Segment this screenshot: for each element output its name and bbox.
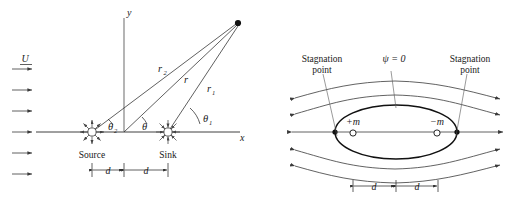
- source-label: Source: [79, 150, 105, 160]
- stagnation-dot-left: [332, 129, 337, 134]
- source-strength-label: +m: [346, 116, 360, 127]
- right-dimension-label-d-left: d: [372, 181, 378, 192]
- right-dimension-label-d-right: d: [415, 181, 421, 192]
- figure-canvas: U y x Source Sink r 2 r r 1 θ 2 θ: [0, 0, 510, 202]
- source-symbol: [80, 120, 104, 144]
- svg-text:2: 2: [164, 69, 168, 76]
- dimension-label-d-left: d: [106, 165, 112, 176]
- stagnation-right-line1: Stagnation: [450, 54, 491, 64]
- radius-label-r1: r 1: [207, 83, 215, 96]
- field-point: [235, 20, 241, 26]
- right-dimension: [353, 180, 438, 192]
- ray-r2: [92, 24, 236, 132]
- sink-symbol: [156, 120, 180, 144]
- sink-strength-label: −m: [430, 116, 444, 127]
- arc-theta1: [190, 108, 200, 124]
- psi-label: ψ = 0: [383, 53, 406, 64]
- sink-label: Sink: [159, 150, 177, 160]
- svg-text:θ: θ: [203, 113, 208, 124]
- svg-text:2: 2: [114, 127, 118, 134]
- right-panel: Stagnation point Stagnation point ψ = 0 …: [292, 53, 503, 192]
- stagnation-right-line2: point: [460, 65, 480, 75]
- streamlines-below: [295, 149, 500, 183]
- svg-text:r: r: [158, 63, 163, 74]
- x-axis-label: x: [239, 132, 245, 143]
- y-axis-label: y: [126, 7, 132, 18]
- freestream-arrows: [12, 69, 32, 174]
- figure-svg: U y x Source Sink r 2 r r 1 θ 2 θ: [0, 0, 510, 202]
- freestream-label: U: [21, 53, 29, 64]
- stagnation-left-line2: point: [312, 65, 332, 75]
- svg-text:θ: θ: [108, 121, 113, 132]
- left-panel: U y x Source Sink r 2 r r 1 θ 2 θ: [12, 7, 245, 177]
- angle-label-theta: θ: [142, 121, 147, 132]
- radius-label-r: r: [184, 74, 189, 85]
- svg-text:1: 1: [212, 89, 215, 96]
- sink-marker: [434, 130, 440, 136]
- leader-psi: [391, 71, 396, 108]
- source-marker: [350, 130, 356, 136]
- dimension-label-d-right: d: [144, 165, 150, 176]
- svg-text:1: 1: [209, 119, 212, 126]
- ray-r: [124, 25, 237, 132]
- stagnation-left-line1: Stagnation: [302, 54, 343, 64]
- radius-label-r2: r 2: [158, 63, 168, 76]
- leader-stagnation-right: [456, 74, 467, 136]
- angle-label-theta1: θ 1: [203, 113, 212, 126]
